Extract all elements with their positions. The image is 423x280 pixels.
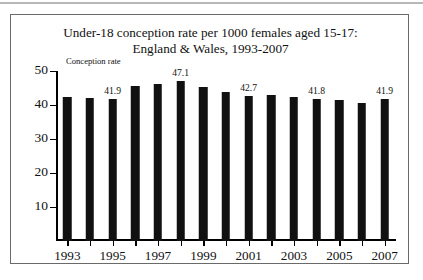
x-tick-label: 1993 — [54, 248, 80, 264]
x-tick-mark — [90, 241, 91, 246]
bar-slot: 42.7 — [237, 71, 260, 241]
bar — [108, 99, 117, 241]
x-tick-mark — [135, 241, 136, 246]
bar-slot — [260, 71, 283, 241]
bar — [131, 86, 140, 241]
x-tick-label: 2005 — [326, 248, 352, 264]
x-tick-label: 1999 — [190, 248, 216, 264]
chart-frame: Under-18 conception rate per 1000 female… — [10, 14, 409, 264]
bar-slot: 41.8 — [305, 71, 328, 241]
bar — [154, 84, 163, 241]
bar-slot — [351, 71, 374, 241]
x-tick-mark — [203, 241, 204, 246]
chart-title-line2: England & Wales, 1993-2007 — [11, 41, 410, 57]
y-axis-title: Conception rate — [66, 56, 121, 66]
bar — [380, 99, 389, 241]
x-tick-mark — [249, 241, 250, 246]
x-tick-label: 1995 — [99, 248, 125, 264]
bar — [63, 97, 72, 241]
chart-title-line1: Under-18 conception rate per 1000 female… — [63, 25, 358, 40]
x-tick-mark — [271, 241, 272, 246]
bar — [244, 96, 253, 241]
y-tick-label: 30 — [35, 130, 49, 146]
x-tick-mark — [362, 241, 363, 246]
y-tick-label: 20 — [35, 164, 49, 180]
bar — [290, 97, 299, 241]
bar-value-label: 42.7 — [240, 82, 257, 93]
x-tick-label: 2007 — [371, 248, 397, 264]
chart-title: Under-18 conception rate per 1000 female… — [11, 25, 410, 57]
bar-slot: 41.9 — [101, 71, 124, 241]
bar-value-label: 41.8 — [308, 85, 325, 96]
bar — [335, 100, 344, 241]
bar — [222, 92, 231, 241]
bar-slot — [328, 71, 351, 241]
chart-screenshot: Under-18 conception rate per 1000 female… — [0, 0, 423, 280]
y-tick-label: 10 — [35, 198, 49, 214]
bar-slot: 41.9 — [373, 71, 396, 241]
x-tick-mark — [67, 241, 68, 246]
y-tick-label: 50 — [35, 62, 49, 78]
bar-slot: 47.1 — [169, 71, 192, 241]
x-tick-mark — [113, 241, 114, 246]
bar — [267, 95, 276, 241]
x-tick-mark — [226, 241, 227, 246]
bar-slot — [56, 71, 79, 241]
bar-slot — [124, 71, 147, 241]
bar — [86, 98, 95, 241]
bar — [312, 99, 321, 241]
x-tick-mark — [158, 241, 159, 246]
bar-value-label: 47.1 — [172, 67, 189, 78]
bar-slot — [215, 71, 238, 241]
bar-slot — [192, 71, 215, 241]
x-tick-mark — [181, 241, 182, 246]
bar-slot — [283, 71, 306, 241]
bar — [176, 81, 185, 241]
x-tick-mark — [294, 241, 295, 246]
bar-value-label: 41.9 — [376, 85, 393, 96]
x-tick-label: 2001 — [235, 248, 261, 264]
top-divider — [0, 2, 423, 4]
x-tick-label: 2003 — [281, 248, 307, 264]
bar-slot — [79, 71, 102, 241]
x-tick-mark — [339, 241, 340, 246]
x-tick-mark — [317, 241, 318, 246]
bar — [358, 103, 367, 241]
bar-value-label: 41.9 — [104, 85, 121, 96]
bar — [199, 87, 208, 241]
x-tick-mark — [385, 241, 386, 246]
bar-series: 41.947.142.741.841.9 — [56, 71, 396, 241]
plot-area: Conception rate 1020304050 41.947.142.74… — [56, 71, 396, 241]
x-tick-label: 1997 — [145, 248, 171, 264]
bar-slot — [147, 71, 170, 241]
y-tick-label: 40 — [35, 96, 49, 112]
